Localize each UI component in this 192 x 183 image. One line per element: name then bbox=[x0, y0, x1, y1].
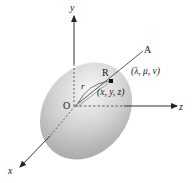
point-r-coords-label: (x, y, z) bbox=[97, 87, 124, 98]
point-r-marker bbox=[109, 79, 113, 83]
direction-cosines-label: (λ, μ, ν) bbox=[131, 66, 160, 77]
ellipsoid-diagram: y z x O A (λ, μ, ν) R (x, y, z) r bbox=[0, 0, 192, 183]
radius-label: r bbox=[81, 81, 85, 91]
origin-label: O bbox=[63, 100, 70, 111]
ellipsoid bbox=[21, 44, 151, 178]
point-r-label: R bbox=[102, 67, 109, 78]
x-axis-label: x bbox=[7, 165, 13, 176]
y-axis-label: y bbox=[69, 2, 75, 13]
z-axis-label: z bbox=[178, 101, 183, 112]
x-axis bbox=[20, 136, 50, 167]
point-a-label: A bbox=[144, 44, 152, 55]
